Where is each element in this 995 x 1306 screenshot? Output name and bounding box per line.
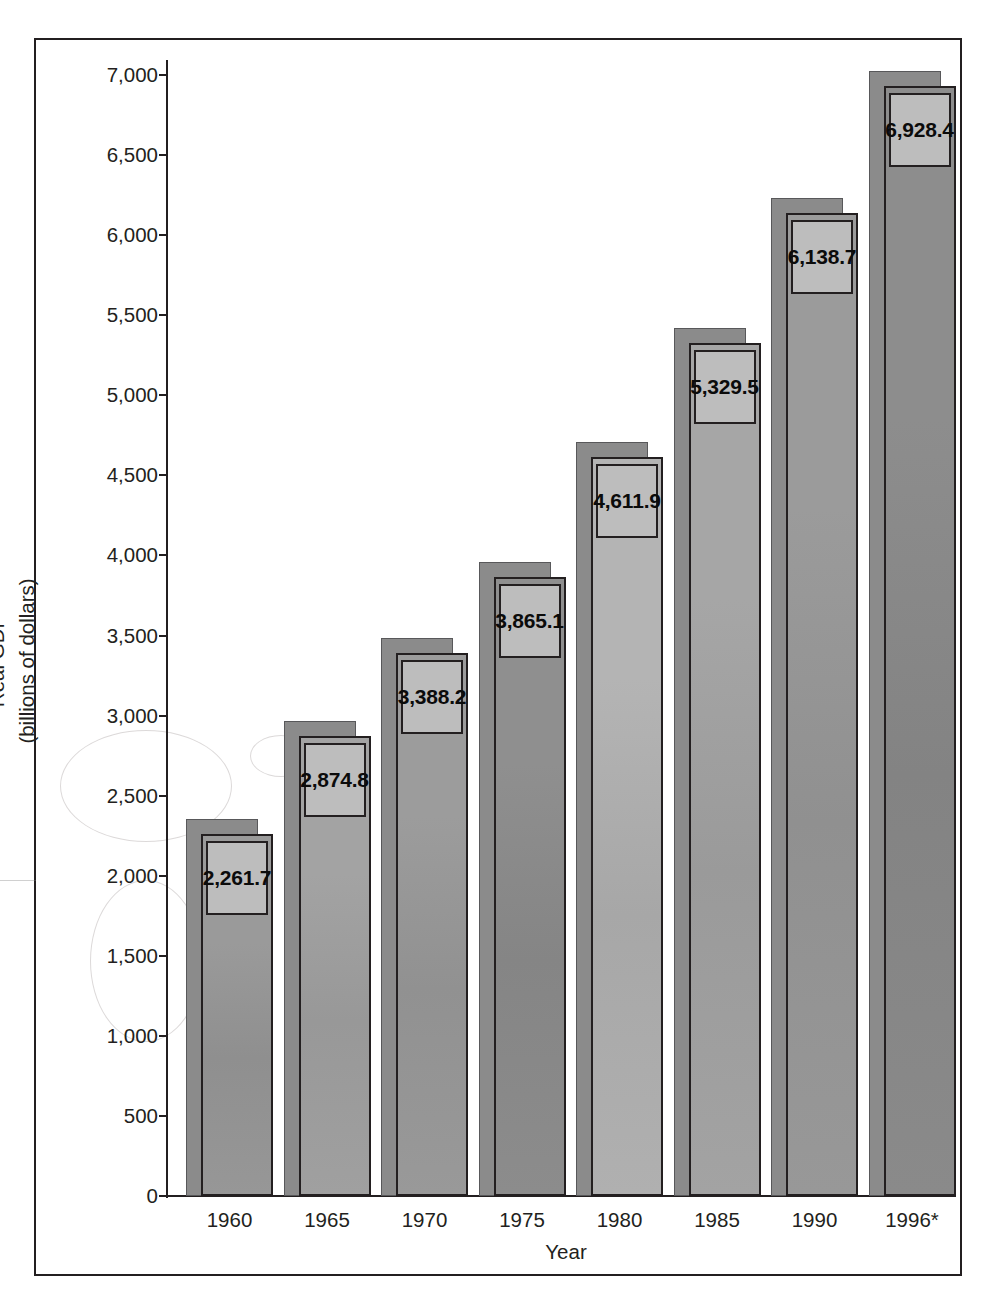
- y-axis-tick-mark: [159, 554, 167, 556]
- y-axis-tick-mark: [159, 74, 167, 76]
- y-axis-tick-mark: [159, 1115, 167, 1117]
- x-axis-tick-label: 1970: [375, 1208, 475, 1232]
- x-axis-tick-label: 1985: [667, 1208, 767, 1232]
- y-axis-tick-mark: [159, 875, 167, 877]
- bar-front-face: [396, 653, 468, 1196]
- bar-column[interactable]: 3,388.2: [381, 638, 468, 1196]
- bar-value-label: 5,329.5: [694, 350, 756, 424]
- bar-series: 2,261.72,874.83,388.23,865.14,611.95,329…: [0, 0, 995, 1306]
- bar-column[interactable]: 6,138.7: [771, 198, 858, 1196]
- x-axis-tick-label: 1980: [570, 1208, 670, 1232]
- bar-column[interactable]: 5,329.5: [674, 328, 761, 1196]
- bar-column[interactable]: 3,865.1: [479, 562, 566, 1196]
- bar-value-label: 6,928.4: [889, 93, 951, 167]
- bar-column[interactable]: 2,874.8: [284, 721, 371, 1196]
- x-axis-tick-label: 1975: [472, 1208, 572, 1232]
- bar-value-label: 2,874.8: [304, 743, 366, 817]
- y-axis-tick-mark: [159, 955, 167, 957]
- figure-canvas: 05001,0001,5002,0002,5003,0003,5004,0004…: [0, 0, 995, 1306]
- bar-front-face: [689, 343, 761, 1196]
- bar-front-face: [884, 86, 956, 1196]
- bar-value-label: 3,865.1: [499, 584, 561, 658]
- bar-front-face: [786, 213, 858, 1196]
- y-axis-tick-mark: [159, 154, 167, 156]
- bar-value-label: 3,388.2: [401, 660, 463, 734]
- y-axis-tick-mark: [159, 474, 167, 476]
- y-axis-tick-mark: [159, 795, 167, 797]
- y-axis-tick-mark: [159, 1195, 167, 1197]
- bar-value-label: 4,611.9: [596, 464, 658, 538]
- bar-column[interactable]: 6,928.4: [869, 71, 956, 1196]
- x-axis-tick-label: 1960: [180, 1208, 280, 1232]
- y-axis-tick-mark: [159, 1035, 167, 1037]
- y-axis-tick-mark: [159, 635, 167, 637]
- y-axis-tick-mark: [159, 715, 167, 717]
- x-axis-tick-labels: 19601965197019751980198519901996*: [166, 1208, 966, 1242]
- x-axis-tick-label: 1996*: [862, 1208, 962, 1232]
- bar-column[interactable]: 2,261.7: [186, 819, 273, 1196]
- y-axis-tick-mark: [159, 314, 167, 316]
- x-axis-tick-label: 1990: [765, 1208, 865, 1232]
- y-axis-tick-mark: [159, 394, 167, 396]
- y-axis-tick-mark: [159, 234, 167, 236]
- x-axis-tick-label: 1965: [277, 1208, 377, 1232]
- bar-value-label: 2,261.7: [206, 841, 268, 915]
- bar-column[interactable]: 4,611.9: [576, 442, 663, 1196]
- bar-value-label: 6,138.7: [791, 220, 853, 294]
- bar-front-face: [494, 577, 566, 1196]
- bar-front-face: [591, 457, 663, 1196]
